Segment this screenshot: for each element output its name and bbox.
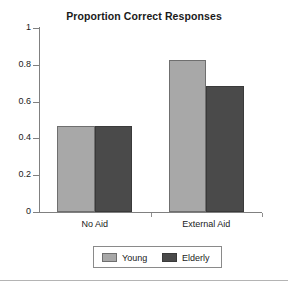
x-axis-tick (151, 213, 152, 217)
bar-elderly-no-aid (95, 126, 133, 212)
x-axis-label-no-aid: No Aid (35, 219, 155, 229)
legend-entry-elderly: Elderly (162, 251, 210, 264)
bar-young-external-aid (169, 60, 207, 212)
bar-young-no-aid (57, 126, 95, 212)
bar-elderly-external-aid (206, 86, 244, 212)
chart-title: Proportion Correct Responses (0, 10, 288, 22)
bar-chart: Proportion Correct Responses 00.20.40.60… (0, 0, 288, 287)
y-axis-tick-label: 0.6 (0, 96, 31, 106)
legend-swatch-icon-young (102, 253, 117, 262)
x-axis-label-external-aid: External Aid (146, 219, 266, 229)
y-axis-tick-label: 0.4 (0, 132, 31, 142)
bottom-divider (0, 280, 288, 281)
x-axis-tick (262, 213, 263, 217)
y-axis-tick-label: 0.8 (0, 59, 31, 69)
plot-area (39, 28, 262, 212)
y-axis-tick-label: 0.2 (0, 169, 31, 179)
y-axis-tick-label: 1 (0, 22, 31, 32)
y-axis-tick (33, 212, 39, 213)
legend-label-young: Young (122, 253, 147, 263)
legend-label-elderly: Elderly (182, 253, 210, 263)
y-axis-tick-label: 0 (0, 206, 31, 216)
chart-legend: Young Elderly (93, 246, 222, 268)
legend-swatch-icon-elderly (162, 253, 177, 262)
legend-entry-young: Young (102, 251, 147, 264)
